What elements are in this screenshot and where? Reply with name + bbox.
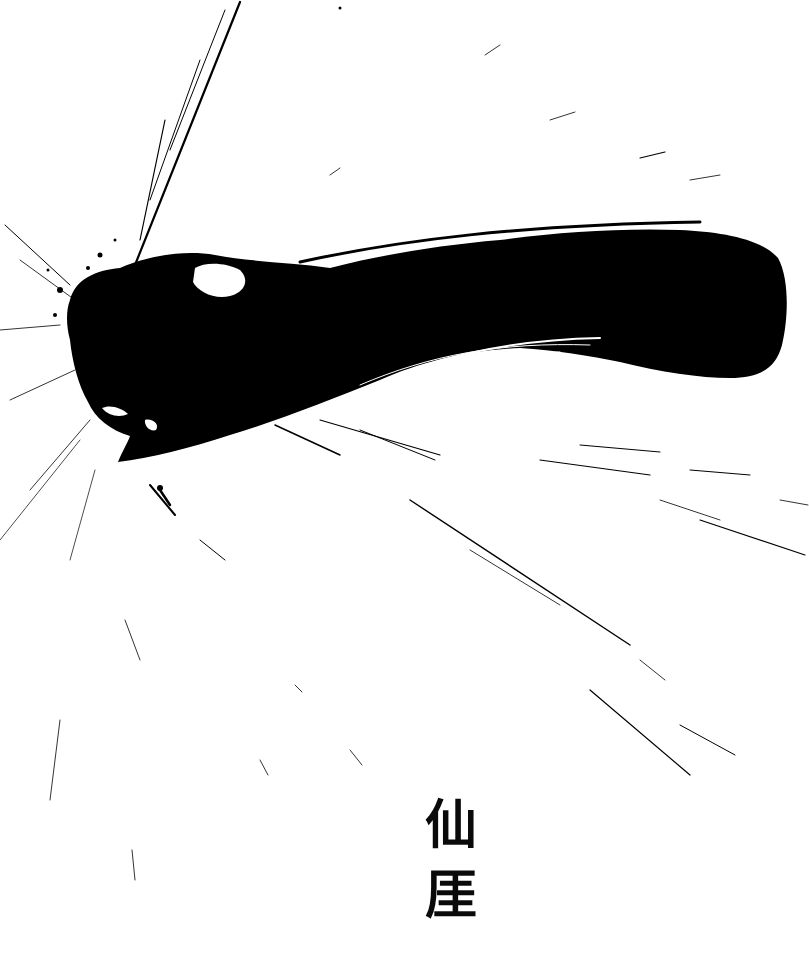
ink-brushstroke-artwork (0, 0, 809, 976)
ink-splatter (0, 2, 808, 880)
artist-signature: 仙 厓 (416, 790, 486, 930)
signature-char-1: 仙 (416, 790, 486, 860)
signature-char-2: 厓 (416, 860, 486, 930)
main-brushstroke (67, 229, 787, 462)
